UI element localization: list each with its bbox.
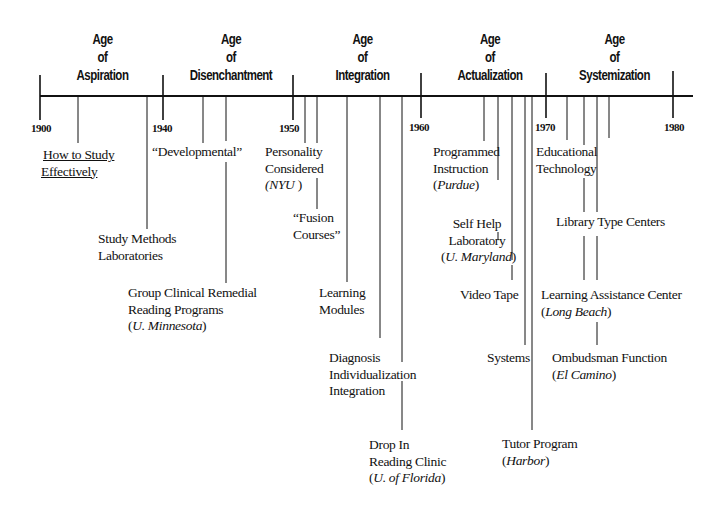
event-video-tape: Video Tape <box>460 287 518 304</box>
year-label-1980: 1980 <box>664 121 684 133</box>
event-library-type-centers: Library Type Centers <box>556 214 665 231</box>
event-ombudsman-function: Ombudsman Function (El Camino) <box>552 350 667 383</box>
event-diagnosis: Diagnosis Individualization Integration <box>329 350 416 400</box>
event-group-clinical: Group Clinical Remedial Reading Programs… <box>128 285 257 335</box>
event-self-help-lab: Self Help Laboratory (U. Maryland) <box>441 216 513 266</box>
age-actualization: Age of Actualization <box>449 30 531 84</box>
age-integration: Age of Integration <box>328 30 398 84</box>
age-systemization: Age of Systemization <box>571 30 657 84</box>
year-label-1950: 1950 <box>279 122 299 134</box>
timeline-diagram: Age of Aspiration Age of Disenchantment … <box>0 0 720 512</box>
event-learning-modules: Learning Modules <box>319 285 365 318</box>
event-educational-technology: Educational Technology <box>536 144 597 177</box>
event-drop-in-clinic: Drop In Reading Clinic (U. of Florida) <box>369 437 446 487</box>
year-label-1970: 1970 <box>535 121 555 133</box>
event-systems: Systems <box>487 350 530 367</box>
event-personality-considered: Personality Considered (NYU ) <box>265 144 324 194</box>
event-fusion-courses: “Fusion Courses” <box>293 210 340 243</box>
year-label-1960: 1960 <box>409 121 429 133</box>
event-how-to-study: How to Study Effectively <box>41 147 114 180</box>
year-label-1900: 1900 <box>31 122 51 134</box>
age-aspiration: Age of Aspiration <box>68 30 138 84</box>
event-learning-assistance-center: Learning Assistance Center (Long Beach) <box>541 287 682 320</box>
year-label-1940: 1940 <box>152 122 172 134</box>
age-disenchantment: Age of Disenchantment <box>186 30 276 84</box>
event-study-methods: Study Methods Laboratories <box>98 231 176 264</box>
event-programmed-instruction: Programmed Instruction (Purdue) <box>433 144 500 194</box>
event-tutor-program: Tutor Program (Harbor) <box>502 436 578 469</box>
event-developmental: “Developmental” <box>152 144 242 161</box>
